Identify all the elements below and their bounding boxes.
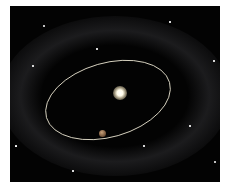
star-dot	[213, 60, 215, 62]
star-dot	[72, 170, 73, 171]
star-dot	[143, 145, 145, 147]
star-dot	[32, 65, 34, 67]
planet	[99, 130, 106, 137]
star-dot	[96, 48, 98, 50]
central-star	[113, 86, 127, 100]
space-scene	[10, 6, 220, 182]
star-dot	[169, 21, 170, 22]
star-dot	[15, 145, 16, 146]
star-dot	[43, 25, 45, 27]
star-dot	[189, 125, 190, 126]
star-dot	[214, 161, 216, 163]
